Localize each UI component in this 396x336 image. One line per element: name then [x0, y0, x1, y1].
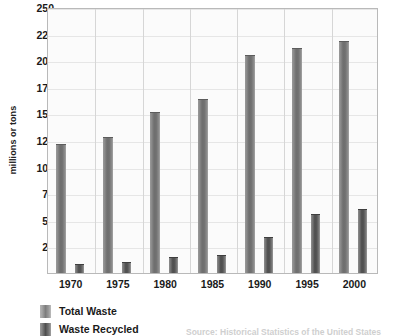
gridline-horizontal: [48, 9, 377, 10]
legend-item-total-waste: Total Waste: [40, 303, 139, 319]
bar-waste-recycled: [311, 214, 320, 273]
gridline-vertical: [95, 9, 96, 273]
gridline-horizontal: [48, 89, 377, 90]
bar-total-waste: [198, 99, 208, 273]
x-tick-label: 2000: [324, 279, 384, 290]
gridline-vertical: [237, 9, 238, 273]
legend-swatch-waste-recycled-icon: [40, 323, 51, 336]
gridline-horizontal: [48, 36, 377, 37]
gridline-horizontal: [48, 169, 377, 170]
gridline-horizontal: [48, 115, 377, 116]
legend-item-waste-recycled: Waste Recycled: [40, 321, 139, 336]
bar-waste-recycled: [75, 264, 84, 273]
bar-total-waste: [150, 112, 160, 273]
chart-legend: Total Waste Waste Recycled: [40, 303, 139, 336]
gridline-horizontal: [48, 222, 377, 223]
bar-total-waste: [103, 137, 113, 273]
bar-waste-recycled: [122, 262, 131, 273]
plot-area: [47, 8, 378, 274]
gridline-horizontal: [48, 62, 377, 63]
gridline-vertical: [190, 9, 191, 273]
bar-waste-recycled: [264, 237, 273, 273]
bar-total-waste: [339, 41, 349, 273]
bar-total-waste: [292, 48, 302, 273]
bar-waste-recycled: [358, 209, 367, 273]
bar-chart: millions or tons 25507510012515017520022…: [0, 0, 396, 336]
legend-label-total-waste: Total Waste: [59, 305, 117, 317]
source-note: Source: Historical Statistics of the Uni…: [186, 327, 381, 336]
gridline-horizontal: [48, 248, 377, 249]
bar-total-waste: [56, 144, 66, 273]
gridline-vertical: [143, 9, 144, 273]
bar-total-waste: [245, 55, 255, 273]
legend-swatch-total-waste-icon: [40, 305, 51, 318]
legend-label-waste-recycled: Waste Recycled: [59, 323, 139, 335]
bar-waste-recycled: [217, 255, 226, 273]
bar-waste-recycled: [169, 257, 178, 273]
gridline-vertical: [284, 9, 285, 273]
gridline-horizontal: [48, 195, 377, 196]
gridline-horizontal: [48, 142, 377, 143]
gridline-vertical: [332, 9, 333, 273]
